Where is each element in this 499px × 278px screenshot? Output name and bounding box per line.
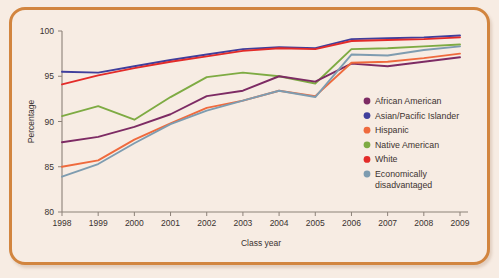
x-tick-label: 2001 — [161, 218, 180, 228]
line-chart-svg: 80859095100 1998199920002001200220032004… — [0, 0, 499, 278]
legend-marker — [364, 112, 371, 119]
x-tick-label: 2008 — [414, 218, 433, 228]
y-tick-label: 80 — [45, 207, 55, 217]
y-tick-label: 100 — [40, 26, 54, 36]
legend-marker — [364, 156, 371, 163]
legend-label: White — [375, 154, 398, 164]
chart-plot-area: 80859095100 1998199920002001200220032004… — [0, 0, 499, 278]
legend-marker — [364, 98, 371, 105]
x-tick-label: 2005 — [306, 218, 325, 228]
x-tick-label: 1999 — [89, 218, 108, 228]
chart-legend: African AmericanAsian/Pacific IslanderHi… — [364, 96, 460, 190]
legend-marker — [364, 171, 371, 178]
legend-marker — [364, 141, 371, 148]
y-tick-label: 90 — [45, 117, 55, 127]
x-tick-label: 2002 — [197, 218, 216, 228]
y-axis-ticks: 80859095100 — [40, 26, 62, 217]
legend-label: disadvantaged — [375, 180, 432, 190]
y-tick-label: 85 — [45, 162, 55, 172]
x-tick-label: 2007 — [378, 218, 397, 228]
x-tick-label: 2006 — [342, 218, 361, 228]
x-axis-ticks: 1998199920002001200220032004200520062007… — [53, 212, 470, 228]
legend-label: Hispanic — [375, 125, 409, 135]
series-line — [62, 45, 460, 120]
legend-label: African American — [375, 96, 442, 106]
x-tick-label: 2009 — [451, 218, 470, 228]
x-axis-title: Class year — [241, 238, 281, 248]
data-series-group — [62, 36, 460, 177]
x-tick-label: 2000 — [125, 218, 144, 228]
x-tick-label: 1998 — [53, 218, 72, 228]
figure-container: 80859095100 1998199920002001200220032004… — [0, 0, 499, 278]
x-tick-label: 2003 — [233, 218, 252, 228]
y-tick-label: 95 — [45, 71, 55, 81]
y-axis-title: Percentage — [26, 99, 36, 143]
legend-label: Economically — [375, 169, 427, 179]
legend-label: Asian/Pacific Islander — [375, 111, 459, 121]
legend-label: Native American — [375, 140, 439, 150]
legend-marker — [364, 127, 371, 134]
x-tick-label: 2004 — [270, 218, 289, 228]
